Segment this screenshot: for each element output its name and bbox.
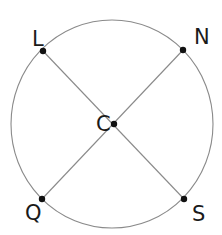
point-label-Q: Q xyxy=(25,201,42,225)
circle-diagram-figure: L N C Q S xyxy=(0,0,222,235)
diagram-canvas: L N C Q S xyxy=(0,0,222,235)
point-dot-N xyxy=(180,47,186,53)
point-label-S: S xyxy=(192,202,205,226)
point-dot-C xyxy=(111,121,117,127)
point-label-C: C xyxy=(96,112,111,136)
point-label-L: L xyxy=(32,27,44,51)
point-label-N: N xyxy=(194,25,210,49)
point-dot-S xyxy=(181,196,187,202)
